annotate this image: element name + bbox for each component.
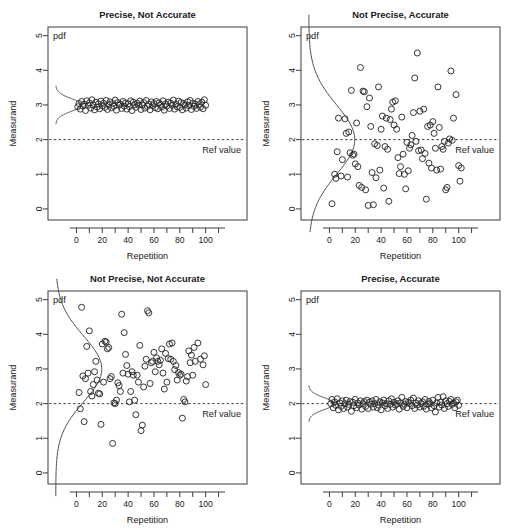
y-axis-label: Measurand [261, 101, 271, 147]
data-point [354, 120, 360, 126]
pdf-curve [56, 86, 82, 125]
panel-bottom-left: Not Precise, Not Accurate012345020406080… [0, 264, 253, 528]
data-point [377, 167, 383, 173]
data-point [128, 388, 134, 394]
panel-top-left: Precise, Not Accurate012345020406080100R… [0, 0, 253, 264]
x-tick-label: 0 [327, 235, 332, 245]
data-point [179, 415, 185, 421]
x-tick-label: 0 [74, 235, 79, 245]
data-point [141, 384, 147, 390]
data-point [201, 353, 207, 359]
ref-value-label: Ref value [202, 409, 241, 419]
panel-plot-bottom-right: Precise, Accurate012345020406080100Repet… [253, 264, 506, 528]
ref-value-label: Ref value [455, 409, 494, 419]
data-point [400, 151, 406, 157]
data-point [405, 168, 411, 174]
data-point [364, 104, 370, 110]
data-point [79, 304, 85, 310]
data-point [134, 372, 140, 378]
data-point [137, 342, 143, 348]
x-axis: 020406080100 [323, 492, 478, 509]
x-tick-label: 0 [327, 499, 332, 509]
panel-title: Precise, Not Accurate [99, 9, 196, 20]
y-axis-label: Measurand [8, 101, 18, 147]
y-tick-label: 4 [34, 68, 44, 73]
data-point [422, 150, 428, 156]
precision-accuracy-figure: Precise, Not Accurate012345020406080100R… [0, 0, 507, 528]
y-tick-label: 5 [287, 297, 297, 302]
data-point [423, 196, 429, 202]
data-point [86, 328, 92, 334]
data-point [450, 115, 456, 121]
panel-plot-top-left: Precise, Not Accurate012345020406080100R… [0, 0, 253, 264]
data-point [85, 370, 91, 376]
panel-title: Precise, Accurate [361, 273, 439, 284]
panel-title: Not Precise, Not Accurate [90, 273, 205, 284]
data-point [457, 178, 463, 184]
data-point [414, 50, 420, 56]
data-point [84, 343, 90, 349]
data-point [92, 369, 98, 375]
y-tick-label: 2 [34, 401, 44, 406]
x-tick-label: 40 [376, 235, 386, 245]
data-point [160, 370, 166, 376]
ref-value-label: Ref value [202, 145, 241, 155]
x-tick-label: 100 [451, 235, 466, 245]
panel-plot-top-right: Not Precise, Accurate012345020406080100R… [253, 0, 506, 264]
panel-bottom-right: Precise, Accurate012345020406080100Repet… [253, 264, 506, 528]
y-tick-label: 1 [34, 172, 44, 177]
y-axis: 012345 [287, 297, 301, 475]
y-tick-label: 2 [34, 137, 44, 142]
scatter-points [76, 304, 209, 446]
data-point [376, 84, 382, 90]
data-point [435, 84, 441, 90]
scatter-points [75, 97, 209, 114]
data-point [348, 87, 354, 93]
data-point [117, 388, 123, 394]
data-point [338, 173, 344, 179]
y-tick-label: 4 [287, 332, 297, 337]
data-point [431, 130, 437, 136]
y-tick-label: 0 [34, 470, 44, 475]
data-point [407, 145, 413, 151]
y-tick-label: 0 [287, 470, 297, 475]
data-point [403, 186, 409, 192]
data-point [329, 201, 335, 207]
data-point [339, 157, 345, 163]
data-point [93, 358, 99, 364]
scatter-points [328, 394, 462, 415]
x-axis: 020406080100 [70, 228, 225, 245]
data-point [108, 374, 114, 380]
pdf-label: pdf [306, 295, 319, 305]
x-axis-label: Repetition [380, 251, 421, 261]
data-point [101, 379, 107, 385]
pdf-curve [309, 15, 355, 232]
ref-value-label: Ref value [455, 145, 494, 155]
x-tick-label: 100 [451, 499, 466, 509]
y-tick-label: 1 [287, 436, 297, 441]
data-point [81, 419, 87, 425]
x-tick-label: 80 [175, 235, 185, 245]
scatter-points [329, 50, 464, 208]
data-point [121, 330, 127, 336]
data-point [119, 311, 125, 317]
x-tick-label: 80 [428, 235, 438, 245]
data-point [106, 344, 112, 350]
data-point [386, 198, 392, 204]
y-axis: 012345 [287, 33, 301, 211]
data-point [399, 114, 405, 120]
y-tick-label: 2 [287, 137, 297, 142]
data-point [135, 379, 141, 385]
x-axis-label: Repetition [127, 515, 168, 525]
y-axis: 012345 [34, 297, 48, 475]
y-tick-label: 4 [34, 332, 44, 337]
plot-box [48, 27, 247, 220]
x-axis: 020406080100 [323, 228, 478, 245]
y-tick-label: 1 [34, 436, 44, 441]
x-tick-label: 60 [149, 499, 159, 509]
panel-plot-bottom-left: Not Precise, Not Accurate012345020406080… [0, 264, 253, 528]
x-tick-label: 40 [123, 499, 133, 509]
data-point [123, 351, 129, 357]
x-tick-label: 60 [149, 235, 159, 245]
data-point [110, 440, 116, 446]
